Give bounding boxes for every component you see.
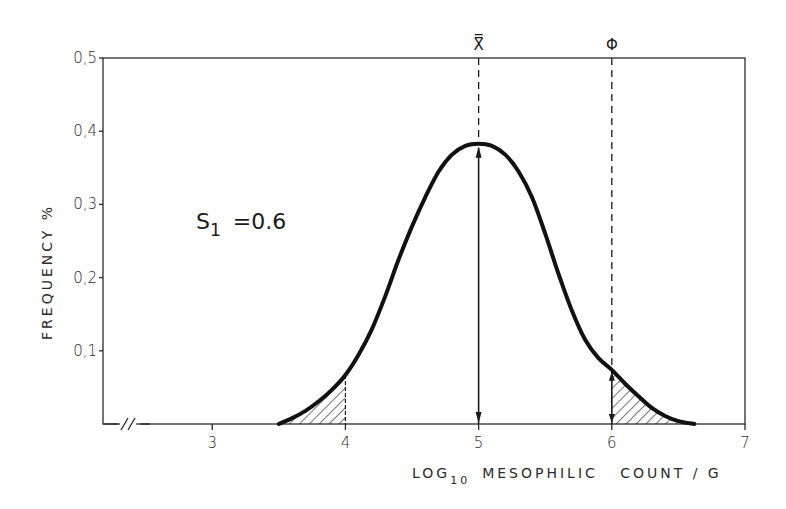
distribution-curve xyxy=(279,144,695,424)
x-axis-ticks: 34567 xyxy=(207,424,749,452)
arrow-up-icon xyxy=(476,147,482,158)
y-tick-label: 0,3 xyxy=(73,195,97,213)
x-axis-title: LOG10MESOPHILIC COUNT / G xyxy=(412,465,722,487)
x-axis-title-rest: MESOPHILIC COUNT / G xyxy=(482,465,722,481)
frequency-distribution-chart: 34567 0,10,20,30,40,5 X̿Φ FREQUENCY % LO… xyxy=(0,0,786,509)
y-axis-ticks: 0,10,20,30,40,5 xyxy=(73,49,103,360)
y-tick-label: 0,4 xyxy=(73,122,97,140)
reference-lines: X̿Φ xyxy=(345,34,617,424)
phi-label: Φ xyxy=(606,36,618,54)
plot-frame xyxy=(103,58,745,429)
y-tick-label: 0,2 xyxy=(73,269,97,287)
annotation-s: S xyxy=(196,209,210,234)
annotation-subscript: 1 xyxy=(210,220,221,240)
arrow-down-icon xyxy=(476,412,482,423)
hatched-region xyxy=(279,375,346,424)
y-axis-title: FREQUENCY % xyxy=(39,204,55,340)
x-axis-title-subscript: 10 xyxy=(450,474,470,487)
hatched-region xyxy=(612,370,695,424)
annotation-value: =0.6 xyxy=(233,209,286,234)
y-tick-label: 0,5 xyxy=(73,49,97,67)
x-axis-title-log: LOG xyxy=(412,465,450,481)
x-tick-label: 4 xyxy=(341,434,351,452)
x-tick-label: 3 xyxy=(207,434,217,452)
x-tick-label: 6 xyxy=(607,434,617,452)
std-dev-annotation: S1=0.6 xyxy=(196,209,286,240)
mean-label: X̿ xyxy=(473,34,483,54)
y-tick-label: 0,1 xyxy=(73,342,97,360)
x-tick-label: 7 xyxy=(740,434,750,452)
x-tick-label: 5 xyxy=(474,434,484,452)
